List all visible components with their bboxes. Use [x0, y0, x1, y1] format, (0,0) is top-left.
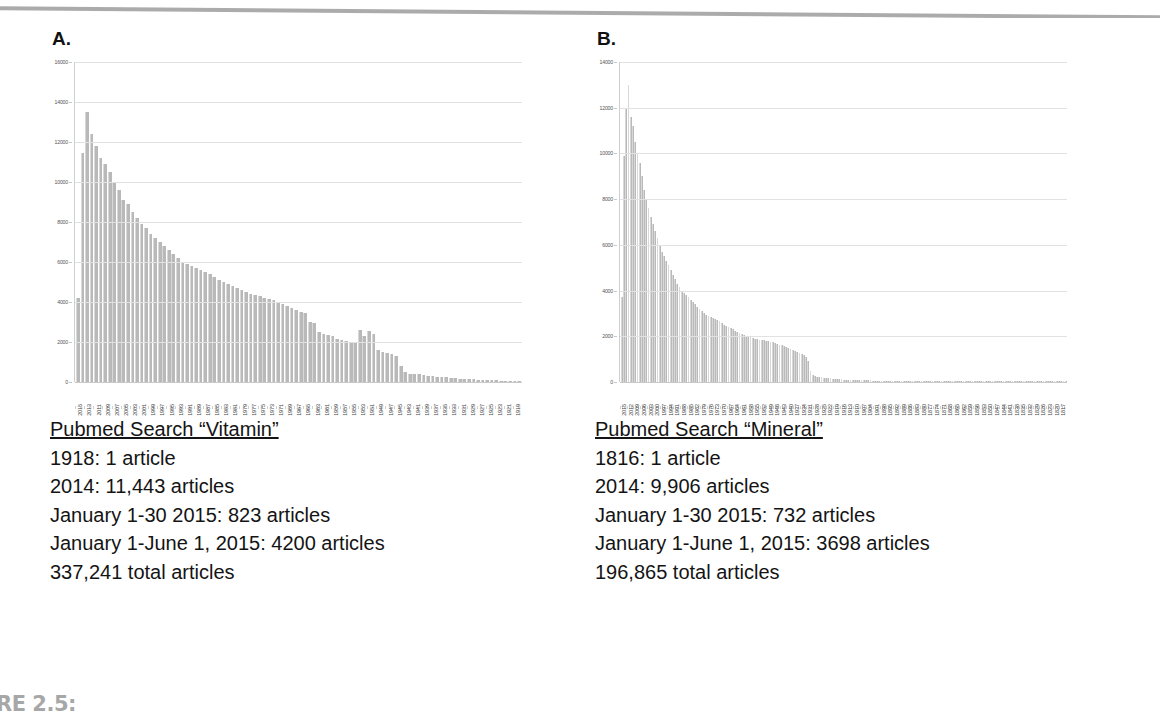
chart-b-y-tick-mark	[614, 62, 617, 63]
bar	[308, 322, 312, 382]
caption-a-line: January 1-30 2015: 823 articles	[50, 501, 570, 530]
bar	[412, 374, 416, 382]
bar	[349, 342, 353, 382]
chart-a-x-axis: 2015201320112009200720052003200119991997…	[74, 406, 522, 448]
bar	[253, 295, 257, 382]
bar	[344, 341, 348, 382]
bar	[149, 234, 153, 382]
chart-a-y-tick-label: 6000	[57, 259, 68, 265]
chart-a-y-tick-label: 14000	[55, 99, 68, 105]
panel-a: A. 0200040006000800010000120001400016000…	[30, 28, 550, 586]
chart-a-y-tick-mark	[69, 62, 72, 63]
bar	[144, 228, 148, 382]
bar	[285, 306, 289, 382]
chart-b-x-axis: 2015201220092006200320001997199419911988…	[619, 406, 1067, 448]
bar	[422, 375, 426, 382]
bar	[262, 298, 266, 382]
chart-b-plot	[619, 62, 1067, 382]
bar	[112, 182, 116, 382]
figure-number: RE 2.5:	[0, 692, 76, 716]
bar	[217, 280, 221, 382]
bar	[408, 374, 412, 382]
bar	[258, 296, 262, 382]
chart-b-y-tick-mark	[614, 291, 617, 292]
bar	[226, 284, 230, 382]
bar	[299, 312, 303, 382]
chart-a-y-tick-mark	[69, 102, 72, 103]
chart-b-bars	[621, 62, 1067, 382]
bar	[171, 254, 175, 382]
chart-b-y-tick-mark	[614, 108, 617, 109]
chart-a-gridline	[75, 62, 522, 63]
chart-a-y-tick-mark	[69, 222, 72, 223]
chart-b-gridline	[620, 62, 1067, 63]
bar	[158, 242, 162, 382]
bar	[353, 343, 357, 382]
panel-b: B. 02000400060008000100001200014000 2015…	[575, 28, 1095, 586]
bar	[199, 270, 203, 382]
chart-a-gridline	[75, 382, 522, 383]
chart-b-y-axis: 02000400060008000100001200014000	[575, 62, 617, 400]
chart-a-y-tick-label: 4000	[57, 299, 68, 305]
bar	[394, 356, 398, 382]
bar	[181, 262, 185, 382]
chart-b-y-tick-mark	[614, 336, 617, 337]
chart-b-gridline	[620, 153, 1067, 154]
bar	[303, 313, 307, 382]
chart-a-y-tick-label: 10000	[55, 179, 68, 185]
chart-a-y-tick-label: 8000	[57, 219, 68, 225]
bar	[381, 352, 385, 382]
chart-b-gridline	[620, 382, 1067, 383]
caption-b-line: January 1-June 1, 2015: 3698 articles	[595, 529, 1115, 558]
bar	[267, 299, 271, 382]
bar	[272, 300, 276, 382]
caption-b-line: 2014: 9,906 articles	[595, 472, 1115, 501]
chart-a-y-tick-mark	[69, 262, 72, 263]
chart-a-gridline	[75, 102, 522, 103]
chart-b-y-tick-label: 12000	[600, 105, 613, 111]
scan-edge-line	[0, 4, 1160, 18]
bar	[385, 353, 389, 382]
bar	[103, 164, 107, 382]
chart-b-y-tick-mark	[614, 199, 617, 200]
bar	[231, 286, 235, 382]
chart-b-gridline	[620, 291, 1067, 292]
bar	[76, 298, 80, 382]
chart-b-gridline	[620, 199, 1067, 200]
chart-a: 0200040006000800010000120001400016000 20…	[30, 56, 530, 401]
caption-b-line: January 1-30 2015: 732 articles	[595, 501, 1115, 530]
chart-a-plot	[74, 62, 522, 382]
bar	[244, 292, 248, 382]
bar	[131, 212, 135, 382]
bar	[417, 374, 421, 382]
bar	[290, 308, 294, 382]
chart-a-gridline	[75, 182, 522, 183]
chart-a-y-tick-mark	[69, 302, 72, 303]
bar	[117, 190, 121, 382]
bar	[399, 366, 403, 382]
caption-a-line: January 1-June 1, 2015: 4200 articles	[50, 529, 570, 558]
chart-b-y-tick-label: 2000	[602, 333, 613, 339]
chart-a-y-axis: 0200040006000800010000120001400016000	[30, 62, 72, 400]
bar	[140, 224, 144, 382]
chart-a-y-tick-mark	[69, 342, 72, 343]
bar	[294, 310, 298, 382]
chart-a-gridline	[75, 262, 522, 263]
chart-b-y-tick-label: 4000	[602, 288, 613, 294]
x-label-cell	[518, 406, 523, 448]
chart-a-gridline	[75, 222, 522, 223]
caption-a-line: 337,241 total articles	[50, 558, 570, 587]
bar	[317, 332, 321, 382]
bar	[358, 330, 362, 382]
chart-b-y-tick-label: 6000	[602, 242, 613, 248]
bar	[176, 258, 180, 382]
figure-page: A. 0200040006000800010000120001400016000…	[0, 0, 1160, 722]
bar	[162, 246, 166, 382]
bar	[281, 304, 285, 382]
chart-a-y-tick-mark	[69, 142, 72, 143]
bar	[376, 350, 380, 382]
chart-a-x-labels: 2015201320112009200720052003200119991997…	[75, 406, 522, 448]
bar	[212, 277, 216, 382]
bar	[312, 323, 316, 382]
chart-b-y-tick-mark	[614, 382, 617, 383]
